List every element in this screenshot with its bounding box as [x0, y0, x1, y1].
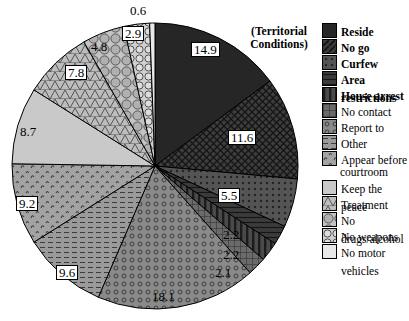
legend-item[interactable]: Report to: [322, 118, 408, 133]
legend-swatch-icon: [322, 135, 337, 150]
legend-item[interactable]: No drugs/alcohol: [322, 211, 408, 226]
legend-item-label: No contact: [341, 106, 391, 118]
legend-title: (Territorial Conditions): [246, 25, 312, 50]
legend-swatch-icon: [322, 119, 337, 134]
pie-slice-value-label: 2.9: [122, 26, 144, 41]
legend-item-label: Other: [341, 138, 367, 150]
legend-swatch-icon: [322, 196, 337, 211]
legend-item[interactable]: Appear before: [322, 150, 408, 165]
legend-item-label: Treatment: [341, 199, 388, 211]
legend-swatch-icon: [322, 212, 337, 227]
pie-chart-figure: 14.911.65.52.22.22.118.19.69.28.77.84.82…: [0, 0, 409, 321]
legend-title-line2: Conditions): [246, 38, 312, 51]
pie-slice-value-label: 8.7: [20, 125, 36, 138]
legend-item-label: No go: [341, 42, 369, 54]
legend-item[interactable]: No motor vehicles: [322, 243, 408, 258]
legend-item-label: House arrest: [341, 90, 404, 102]
legend-title-line1: (Territorial: [246, 25, 312, 38]
legend-items: ResideNo goCurfewArea restrictionsHouse …: [322, 22, 408, 259]
legend-swatch-icon: [322, 87, 337, 102]
legend-swatch-icon: [322, 228, 337, 243]
pie-slice-value-label: 9.6: [56, 265, 78, 280]
pie-slice-value-label: 11.6: [228, 130, 256, 145]
legend-item-label: Report to: [341, 122, 384, 134]
pie-slice-value-label: 4.8: [91, 40, 107, 53]
legend-item-label: Reside: [341, 26, 374, 38]
pie-slice-value-label: 7.8: [65, 65, 87, 80]
legend-item-label: Curfew: [341, 58, 378, 70]
pie-slice-value-label: 2.1: [215, 266, 231, 279]
legend-item[interactable]: Reside: [322, 22, 408, 37]
legend-swatch-icon: [322, 71, 337, 86]
legend-item[interactable]: No go: [322, 38, 408, 53]
legend-item[interactable]: Area restrictions: [322, 70, 408, 85]
legend-swatch-icon: [322, 244, 337, 259]
pie-slice-value-label: 2.2: [223, 248, 239, 261]
legend-item[interactable]: Other: [322, 134, 408, 149]
pie-slice-value-label: 18.1: [152, 290, 175, 303]
legend-swatch-icon: [322, 180, 337, 195]
pie-slices: [12, 23, 298, 309]
legend-item-label: No weapons: [341, 231, 398, 243]
pie-slice-value-label: 14.9: [191, 42, 220, 57]
legend-item-label: Appear before: [341, 154, 407, 166]
pie-slice-value-label: 9.2: [16, 196, 38, 211]
legend-item[interactable]: Curfew: [322, 54, 408, 69]
legend-item[interactable]: No weapons: [322, 227, 408, 242]
legend-swatch-icon: [322, 55, 337, 70]
pie-slice-value-label: 0.6: [130, 4, 146, 17]
pie-slice-value-label: 2.2: [223, 228, 239, 241]
legend-item[interactable]: Keep the peace: [322, 179, 408, 194]
legend-swatch-icon: [322, 39, 337, 54]
legend-swatch-icon: [322, 103, 337, 118]
legend-swatch-icon: [322, 151, 337, 166]
legend-item[interactable]: House arrest: [322, 86, 408, 101]
pie-slice-value-label: 5.5: [218, 188, 240, 203]
legend-swatch-icon: [322, 23, 337, 38]
legend-item-label: No motor vehicles: [341, 247, 385, 277]
